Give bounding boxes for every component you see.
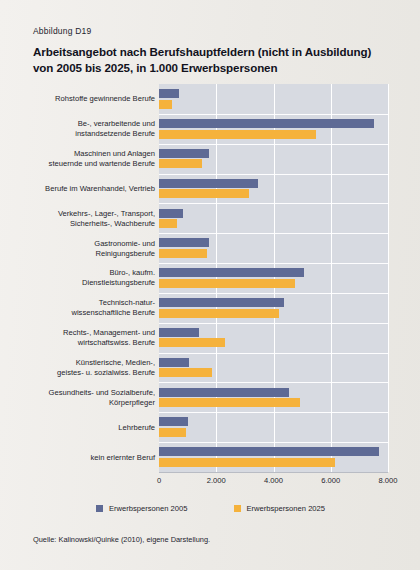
- bar-2025: [159, 398, 300, 407]
- row-separator: [159, 174, 388, 175]
- bar-2025: [159, 338, 225, 347]
- category-label: Büro-, kaufm.Dienstleistungsberufe: [35, 268, 155, 288]
- bar-2025: [159, 458, 335, 467]
- chart-row: Gesundheits- und Sozialberufe,Körperpfle…: [33, 382, 388, 412]
- chart-row: Büro-, kaufm.Dienstleistungsberufe: [33, 263, 388, 293]
- legend-item: Erwerbspersonen 2005: [96, 504, 188, 513]
- bar-2025: [159, 428, 186, 437]
- figure-page: Abbildung D19 Arbeitsangebot nach Berufs…: [0, 0, 420, 570]
- bar-2025: [159, 100, 172, 109]
- chart-legend: Erwerbspersonen 2005Erwerbspersonen 2025: [33, 504, 388, 513]
- x-tick-label: 0: [157, 476, 161, 485]
- legend-label: Erwerbspersonen 2025: [247, 504, 326, 513]
- legend-label: Erwerbspersonen 2005: [109, 504, 188, 513]
- row-separator: [159, 412, 388, 413]
- category-label: Gesundheits- und Sozialberufe,Körperpfle…: [35, 388, 155, 408]
- bar-2025: [159, 189, 249, 198]
- title-line-1: Arbeitsangebot nach Berufshauptfeldern (…: [33, 45, 371, 58]
- row-separator: [159, 233, 388, 234]
- category-label: Künstlerische, Medien-,geistes- u. sozia…: [35, 358, 155, 378]
- x-tick-label: 6.000: [321, 476, 340, 485]
- source-note: Quelle: Kalinowski/Quinke (2010), eigene…: [33, 535, 210, 544]
- category-label: Maschinen und Anlagensteuernde und warte…: [35, 149, 155, 169]
- chart-row: Lehrberufe: [33, 412, 388, 442]
- bar-2005: [159, 328, 199, 337]
- category-label: kein erlernter Beruf: [35, 453, 155, 463]
- bar-2005: [159, 149, 209, 158]
- bar-2025: [159, 368, 212, 377]
- chart-row: Künstlerische, Medien-,geistes- u. sozia…: [33, 353, 388, 383]
- bar-2025: [159, 130, 316, 139]
- figure-label: Abbildung D19: [33, 26, 91, 36]
- row-separator: [159, 382, 388, 383]
- row-separator: [159, 144, 388, 145]
- chart-row: Verkehrs-, Lager-, Transport,Sicherheits…: [33, 203, 388, 233]
- bar-2025: [159, 249, 207, 258]
- gridline: [388, 84, 389, 472]
- bar-chart: Rohstoffe gewinnende BerufeBe-, verarbei…: [33, 84, 388, 479]
- x-tick-label: 8.000: [378, 476, 397, 485]
- legend-swatch-icon: [234, 505, 241, 512]
- category-label: Gastronomie- undReinigungsberufe: [35, 239, 155, 259]
- category-label: Rechts-, Management- undwirtschaftswiss.…: [35, 328, 155, 348]
- bar-rows: Rohstoffe gewinnende BerufeBe-, verarbei…: [33, 84, 388, 472]
- x-tick-label: 2.000: [207, 476, 226, 485]
- row-separator: [159, 353, 388, 354]
- bar-2005: [159, 388, 289, 397]
- bar-2005: [159, 89, 179, 98]
- bar-2005: [159, 179, 258, 188]
- row-separator: [159, 114, 388, 115]
- title-line-2: von 2005 bis 2025, in 1.000 Erwerbsperso…: [33, 61, 277, 74]
- row-separator: [159, 293, 388, 294]
- chart-row: Gastronomie- undReinigungsberufe: [33, 233, 388, 263]
- category-label: Rohstoffe gewinnende Berufe: [35, 94, 155, 104]
- chart-row: Maschinen und Anlagensteuernde und warte…: [33, 144, 388, 174]
- category-label: Lehrberufe: [35, 423, 155, 433]
- chart-row: Technisch-natur-wissenschaftliche Berufe: [33, 293, 388, 323]
- legend-swatch-icon: [96, 505, 103, 512]
- bar-2005: [159, 238, 209, 247]
- chart-row: Rechts-, Management- undwirtschaftswiss.…: [33, 323, 388, 353]
- chart-row: Rohstoffe gewinnende Berufe: [33, 84, 388, 114]
- bar-2005: [159, 447, 379, 456]
- bar-2025: [159, 159, 202, 168]
- category-label: Verkehrs-, Lager-, Transport,Sicherheits…: [35, 209, 155, 229]
- row-separator: [159, 323, 388, 324]
- bar-2025: [159, 219, 177, 228]
- chart-row: kein erlernter Beruf: [33, 442, 388, 472]
- chart-row: Berufe im Warenhandel, Vertrieb: [33, 174, 388, 204]
- bar-2025: [159, 279, 295, 288]
- x-axis-line: [159, 472, 388, 473]
- row-separator: [159, 442, 388, 443]
- x-tick-label: 4.000: [264, 476, 283, 485]
- category-label: Technisch-natur-wissenschaftliche Berufe: [35, 298, 155, 318]
- bar-2005: [159, 209, 183, 218]
- bar-2025: [159, 309, 279, 318]
- bar-2005: [159, 358, 189, 367]
- category-label: Berufe im Warenhandel, Vertrieb: [35, 184, 155, 194]
- bar-2005: [159, 298, 284, 307]
- row-separator: [159, 203, 388, 204]
- bar-2005: [159, 268, 304, 277]
- bar-2005: [159, 417, 188, 426]
- category-label: Be-, verarbeitende undinstandsetzende Be…: [35, 119, 155, 139]
- page-title: Arbeitsangebot nach Berufshauptfeldern (…: [33, 44, 393, 77]
- bar-2005: [159, 119, 374, 128]
- chart-row: Be-, verarbeitende undinstandsetzende Be…: [33, 114, 388, 144]
- legend-item: Erwerbspersonen 2025: [234, 504, 326, 513]
- row-separator: [159, 263, 388, 264]
